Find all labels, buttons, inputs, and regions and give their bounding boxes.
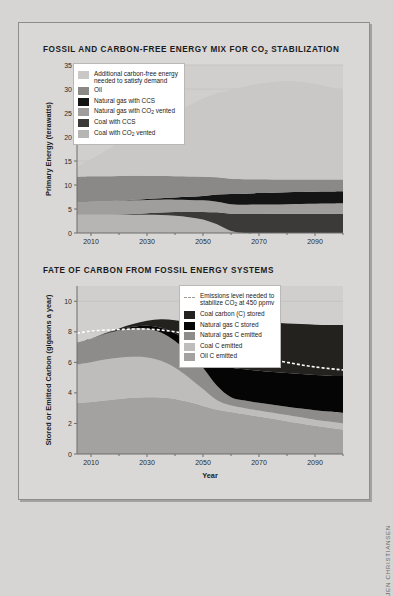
legend-label: Natural gas C emitted [200,331,262,339]
legend-item: Natural gas C stored [184,321,274,330]
y-tick-label: 5 [68,206,72,213]
legend-item: Natural gas with CCS [78,97,178,106]
y-tick-label: 6 [68,359,72,366]
legend-item: Emissions level needed tostabilize CO2 a… [184,292,274,309]
y-tick-label: 10 [64,298,72,305]
legend-swatch-icon [78,98,89,106]
legend-label: Additional carbon-free energyneeded to s… [94,70,178,85]
legend-label: Natural gas with CO2 vented [94,107,175,117]
y-tick-label: 10 [64,182,72,189]
x-tick-label: 2070 [251,238,267,245]
y-tick-label: 0 [68,230,72,237]
artist-credit: JEN CHRISTIANSEN [384,525,391,596]
legend-swatch-icon [184,343,195,351]
legend-item: Oil C emitted [184,352,274,361]
y-tick-label: 30 [64,86,72,93]
top-chart-title: FOSSIL AND CARBON-FREE ENERGY MIX FOR CO… [43,45,340,55]
legend-swatch-icon [184,332,195,340]
legend-swatch-icon [184,322,195,330]
legend-item: Natural gas with CO2 vented [78,107,178,117]
x-tick-label: 2050 [195,459,211,466]
y-tick-label: 15 [64,158,72,165]
x-tick-label: 2010 [83,459,99,466]
x-axis-title: Year [202,471,218,480]
legend-label: Oil [94,86,102,94]
legend-item: Oil [78,86,178,95]
y-tick-label: 35 [64,62,72,69]
legend-swatch-icon [78,87,89,95]
legend-item: Coal with CO2 vented [78,129,178,139]
legend-swatch-icon [78,108,89,116]
x-tick-label: 2090 [307,459,323,466]
legend-swatch-icon [184,353,195,361]
legend-label: Coal with CO2 vented [94,129,155,139]
legend-swatch-icon [78,119,89,127]
y-axis-title: Stored or Emitted Carbon (gigatons a yea… [44,294,53,446]
energy-mix-legend: Additional carbon-free energyneeded to s… [73,63,185,145]
x-tick-label: 2010 [83,238,99,245]
legend-label: Oil C emitted [200,352,237,360]
y-tick-label: 8 [68,328,72,335]
legend-swatch-icon [78,130,89,138]
legend-label: Natural gas with CCS [94,97,155,105]
legend-label: Emissions level needed tostabilize CO2 a… [200,292,274,309]
x-tick-label: 2050 [195,238,211,245]
y-tick-label: 0 [68,451,72,458]
legend-label: Natural gas C stored [200,321,259,329]
legend-item: Coal carbon (C) stored [184,310,274,319]
y-tick-label: 25 [64,110,72,117]
legend-item: Additional carbon-free energyneeded to s… [78,70,178,85]
legend-item: Natural gas C emitted [184,331,274,340]
x-tick-label: 2030 [139,459,155,466]
x-tick-label: 2070 [251,459,267,466]
legend-label: Coal C emitted [200,342,242,350]
legend-label: Coal with CCS [94,118,136,126]
legend-item: Coal C emitted [184,342,274,351]
carbon-fate-legend: Emissions level needed tostabilize CO2 a… [179,285,281,368]
y-axis-title: Primary Energy (terawatts) [44,101,53,196]
figure-panel: FOSSIL AND CARBON-FREE ENERGY MIX FOR CO… [18,22,370,500]
x-tick-label: 2030 [139,238,155,245]
legend-label: Coal carbon (C) stored [200,310,265,318]
x-tick-label: 2090 [307,238,323,245]
legend-swatch-icon [184,297,195,298]
legend-swatch-icon [78,71,89,79]
y-tick-label: 20 [64,134,72,141]
y-tick-label: 2 [68,420,72,427]
legend-swatch-icon [184,311,195,319]
bottom-chart-title: FATE OF CARBON FROM FOSSIL ENERGY SYSTEM… [43,266,274,275]
legend-item: Coal with CCS [78,118,178,127]
y-tick-label: 4 [68,389,72,396]
